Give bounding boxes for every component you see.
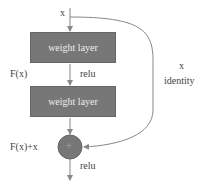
skip-x-label: x <box>179 60 184 71</box>
fx-label: F(x) <box>10 68 27 79</box>
residual-block-diagram: x weight layer F(x) relu weight layer F(… <box>0 0 206 186</box>
fx-plus-x-label: F(x)+x <box>10 141 38 152</box>
plus-icon: + <box>66 140 72 151</box>
weight-layer-1: weight layer <box>30 32 116 63</box>
identity-label: identity <box>164 75 195 86</box>
input-label: x <box>60 7 65 18</box>
weight-layer-2-label: weight layer <box>48 96 98 107</box>
weight-layer-2: weight layer <box>30 86 116 117</box>
weight-layer-1-label: weight layer <box>48 42 98 53</box>
relu-label-2: relu <box>80 160 96 171</box>
relu-label-1: relu <box>80 68 96 79</box>
